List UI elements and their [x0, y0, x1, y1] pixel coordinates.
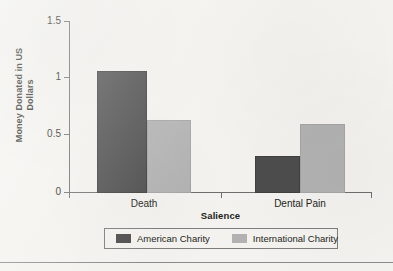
legend-label-international-charity: International Charity: [253, 233, 338, 244]
bar-dental-pain-international-charity: [300, 124, 345, 193]
x-tick-mark-end: [371, 193, 372, 198]
page-bottom-rule: [0, 262, 393, 263]
bar-death-international-charity: [147, 120, 191, 193]
bar-death-american-charity: [97, 71, 147, 193]
y-tick-label-1.5: 1.5: [47, 16, 61, 26]
y-axis-title-line-2: Dollars: [25, 79, 35, 110]
x-tick-mark-start: [69, 193, 70, 198]
y-axis-title: Money Donated in US Dollars: [14, 33, 36, 157]
legend-entry-american-charity: American Charity: [116, 233, 210, 244]
y-tick-label-0.5: 0.5: [47, 129, 61, 139]
legend-label-american-charity: American Charity: [137, 233, 210, 244]
x-category-label-death: Death: [104, 198, 184, 210]
chart-legend: American Charity International Charity: [104, 228, 338, 249]
x-tick-mark-middle: [221, 193, 222, 198]
legend-swatch-icon-american-charity: [116, 234, 131, 243]
bar-dental-pain-american-charity: [255, 156, 300, 193]
y-tick-label-0: 0: [55, 187, 61, 197]
y-axis-line: [69, 21, 70, 193]
legend-entry-international-charity: International Charity: [232, 233, 338, 244]
y-axis-title-line-1: Money Donated in US: [14, 48, 24, 142]
legend-swatch-icon-international-charity: [232, 234, 247, 243]
x-axis-title: Salience: [69, 210, 372, 221]
grouped-bar-chart: Money Donated in US Dollars 1.5 1 0.5 0 …: [0, 0, 393, 271]
x-category-label-dental-pain: Dental Pain: [260, 198, 340, 210]
y-tick-label-1: 1: [55, 72, 61, 82]
